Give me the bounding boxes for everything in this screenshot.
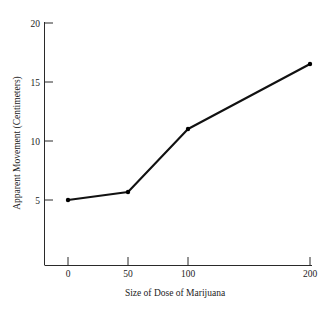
x-tick-label-100: 100 bbox=[181, 269, 196, 279]
data-point-0 bbox=[66, 198, 70, 202]
data-series-line bbox=[68, 64, 310, 200]
data-point-3 bbox=[308, 62, 312, 66]
y-tick-label-15: 15 bbox=[31, 78, 41, 88]
data-point-1 bbox=[126, 190, 130, 194]
line-chart: 20 15 10 5 0 50 100 200 Size of Dose of … bbox=[0, 0, 325, 310]
data-point-2 bbox=[186, 127, 190, 131]
x-axis-title: Size of Dose of Marijuana bbox=[125, 288, 226, 298]
y-tick-label-10: 10 bbox=[31, 137, 41, 147]
x-tick-label-0: 0 bbox=[66, 269, 71, 279]
y-tick-label-5: 5 bbox=[35, 196, 40, 206]
x-tick-label-50: 50 bbox=[123, 269, 133, 279]
y-tick-label-20: 20 bbox=[31, 19, 41, 29]
y-axis-ticks bbox=[45, 23, 54, 200]
y-axis-title: Apparent Movement (Centimeters) bbox=[12, 76, 23, 210]
x-tick-label-200: 200 bbox=[303, 269, 318, 279]
x-axis-ticks bbox=[68, 257, 310, 266]
chart-figure: 20 15 10 5 0 50 100 200 Size of Dose of … bbox=[0, 0, 325, 310]
